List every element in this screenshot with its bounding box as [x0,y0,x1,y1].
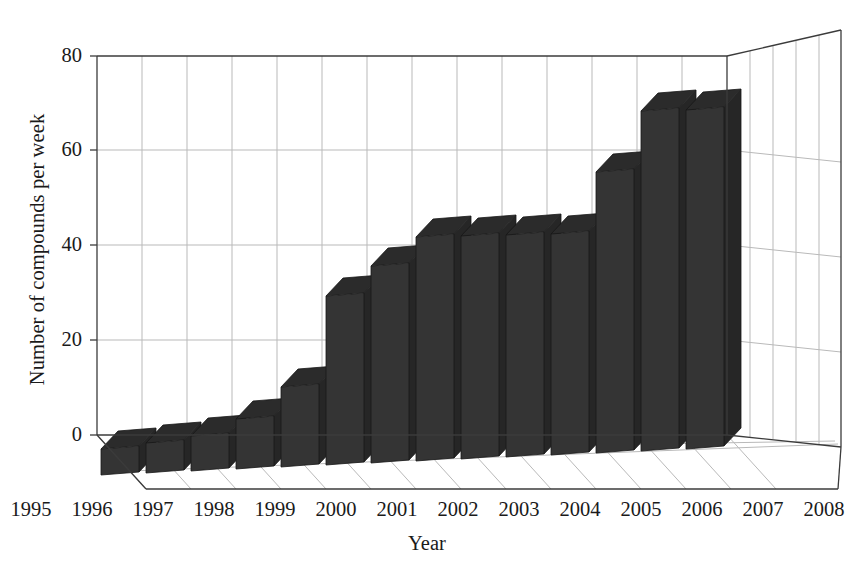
x-tick-label-1995: 1995 [0,498,62,521]
y-tick-label-80: 80 [30,45,82,65]
x-axis-title: Year [0,532,854,555]
x-tick-label-2003: 2003 [488,498,550,521]
x-tick-label-1997: 1997 [122,498,184,521]
x-tick-label-1999: 1999 [244,498,306,521]
chart-svg [0,0,854,577]
y-tick-label-0: 0 [30,424,82,444]
x-tick-label-2006: 2006 [671,498,733,521]
x-tick-label-2008: 2008 [793,498,854,521]
y-axis-tickmarks [90,56,97,435]
x-tick-label-2004: 2004 [549,498,611,521]
x-tick-label-2002: 2002 [427,498,489,521]
chart-figure: 80 60 40 20 0 1995 1996 1997 1998 1999 2… [0,0,854,577]
x-tick-label-2005: 2005 [610,498,672,521]
x-tick-label-1998: 1998 [183,498,245,521]
right-wall [727,30,841,447]
bar-2008 [686,89,741,449]
chart-plot-area [0,0,854,577]
x-tick-label-1996: 1996 [61,498,123,521]
x-tick-label-2000: 2000 [305,498,367,521]
x-tick-label-2007: 2007 [732,498,794,521]
x-tick-label-2001: 2001 [366,498,428,521]
y-axis-title: Number of compounds per week [26,85,49,415]
